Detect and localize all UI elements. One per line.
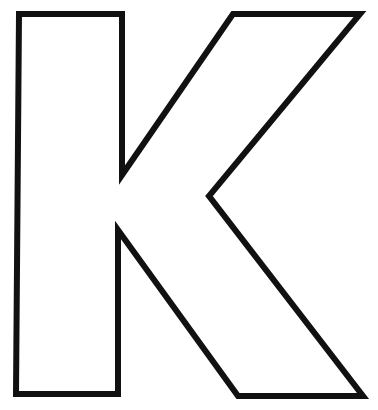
letter-k-graphic: Uppercase letter K drawn as a black outl… <box>0 0 378 410</box>
letter-canvas: Letter K Outline Uppercase letter K draw… <box>0 0 378 410</box>
